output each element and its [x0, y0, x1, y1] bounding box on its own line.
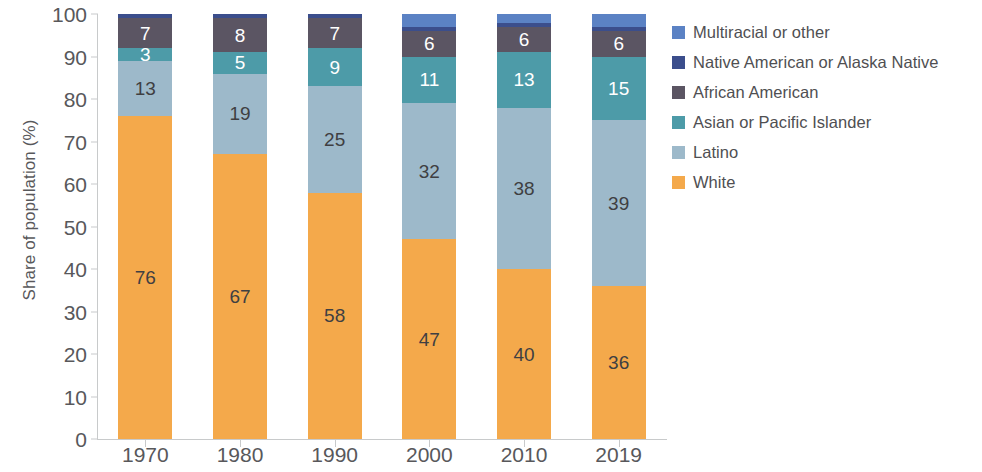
bar-segment-value: 32: [419, 162, 440, 181]
bar-segment[interactable]: [402, 27, 456, 31]
y-axis-tick-mark: [91, 56, 98, 57]
bar-slot: 4038136: [477, 14, 572, 439]
plot-area: 0102030405060708090100 76133767195858259…: [98, 14, 666, 439]
bar-segment[interactable]: 9: [308, 48, 362, 86]
y-axis-tick-mark: [91, 311, 98, 312]
bar-segment[interactable]: [308, 14, 362, 18]
chart-legend: Multiracial or otherNative American or A…: [672, 18, 978, 198]
x-axis-tick-label: 2010: [477, 443, 572, 467]
y-axis-tick-mark: [91, 396, 98, 397]
y-axis-tick-mark: [91, 354, 98, 355]
bar-segment[interactable]: 13: [497, 52, 551, 107]
legend-label: White: [693, 173, 735, 192]
bar-segment-value: 39: [608, 194, 629, 213]
legend-swatch-icon: [672, 116, 685, 129]
bar-segment-value: 47: [419, 330, 440, 349]
bar-segment-value: 15: [608, 79, 629, 98]
y-axis-tick-mark: [91, 99, 98, 100]
y-axis-tick-mark: [91, 141, 98, 142]
bar-segment-value: 6: [519, 30, 530, 49]
bar-segment-value: 6: [613, 34, 624, 53]
legend-label: Native American or Alaska Native: [693, 53, 939, 72]
bar-segment[interactable]: 25: [308, 86, 362, 192]
bar-segment[interactable]: 76: [118, 116, 172, 439]
bar-segment[interactable]: 47: [402, 239, 456, 439]
bar-segment[interactable]: [497, 14, 551, 23]
bar-segment[interactable]: [402, 14, 456, 27]
bar-stack[interactable]: 671958: [213, 14, 267, 439]
x-axis-tick-label: 1970: [98, 443, 193, 467]
bar-segment[interactable]: 19: [213, 74, 267, 155]
x-axis-tick-label: 2000: [382, 443, 477, 467]
legend-item[interactable]: White: [672, 168, 978, 196]
x-axis-labels: 197019801990200020102019: [98, 443, 666, 467]
bar-segment[interactable]: 11: [402, 57, 456, 104]
bar-segment[interactable]: [592, 14, 646, 27]
bar-segment-value: 5: [235, 53, 246, 72]
bar-segment[interactable]: 7: [308, 18, 362, 48]
bar-segment-value: 25: [324, 130, 345, 149]
bar-segment-value: 40: [513, 345, 534, 364]
legend-swatch-icon: [672, 56, 685, 69]
bar-segment-value: 7: [329, 24, 340, 43]
legend-label: Latino: [693, 143, 738, 162]
bar-segment[interactable]: 38: [497, 108, 551, 270]
bar-segment[interactable]: 8: [213, 18, 267, 52]
y-axis-tick-mark: [91, 439, 98, 440]
legend-item[interactable]: Multiracial or other: [672, 18, 978, 46]
bar-segment-value: 38: [513, 179, 534, 198]
bar-group: 761337671958582597473211640381363639156: [98, 14, 666, 439]
bar-stack[interactable]: 4038136: [497, 14, 551, 439]
y-axis-tick-mark: [91, 226, 98, 227]
bar-segment-value: 76: [135, 268, 156, 287]
legend-label: Multiracial or other: [693, 23, 830, 42]
bar-segment[interactable]: 13: [118, 61, 172, 116]
bar-segment[interactable]: 6: [402, 31, 456, 57]
legend-swatch-icon: [672, 146, 685, 159]
stacked-bar-chart: Share of population (%) 0102030405060708…: [0, 0, 982, 472]
bar-segment[interactable]: 32: [402, 103, 456, 239]
y-axis-title: Share of population (%): [20, 45, 40, 375]
bar-segment[interactable]: 3: [118, 48, 172, 61]
bar-segment[interactable]: 58: [308, 193, 362, 440]
x-axis-tick-label: 2019: [571, 443, 666, 467]
bar-slot: 582597: [287, 14, 382, 439]
bar-segment[interactable]: 15: [592, 57, 646, 121]
bar-slot: 671958: [193, 14, 288, 439]
legend-item[interactable]: Asian or Pacific Islander: [672, 108, 978, 136]
bar-segment-value: 6: [424, 34, 435, 53]
x-axis-line: [97, 439, 667, 440]
legend-item[interactable]: Latino: [672, 138, 978, 166]
bar-segment[interactable]: 6: [497, 27, 551, 53]
bar-slot: 3639156: [571, 14, 666, 439]
bar-segment[interactable]: 40: [497, 269, 551, 439]
bar-segment-value: 19: [229, 104, 250, 123]
bar-segment-value: 7: [140, 24, 151, 43]
bar-segment-value: 36: [608, 353, 629, 372]
bar-segment[interactable]: 7: [118, 18, 172, 48]
y-axis-tick-mark: [91, 184, 98, 185]
bar-stack[interactable]: 3639156: [592, 14, 646, 439]
legend-label: Asian or Pacific Islander: [693, 113, 871, 132]
bar-segment-value: 9: [329, 58, 340, 77]
bar-segment-value: 58: [324, 306, 345, 325]
legend-swatch-icon: [672, 26, 685, 39]
bar-segment[interactable]: [118, 14, 172, 18]
legend-item[interactable]: Native American or Alaska Native: [672, 48, 978, 76]
bar-stack[interactable]: 582597: [308, 14, 362, 439]
bar-segment-value: 8: [235, 26, 246, 45]
bar-segment[interactable]: 67: [213, 154, 267, 439]
bar-stack[interactable]: 4732116: [402, 14, 456, 439]
legend-item[interactable]: African American: [672, 78, 978, 106]
bar-segment[interactable]: [213, 14, 267, 18]
bar-segment[interactable]: 39: [592, 120, 646, 286]
bar-segment[interactable]: 5: [213, 52, 267, 73]
bar-segment[interactable]: [592, 27, 646, 31]
bar-stack[interactable]: 761337: [118, 14, 172, 439]
bar-segment[interactable]: 6: [592, 31, 646, 57]
y-axis-tick-mark: [91, 269, 98, 270]
bar-segment[interactable]: 36: [592, 286, 646, 439]
bar-segment[interactable]: [497, 23, 551, 27]
bar-segment-value: 67: [229, 287, 250, 306]
bar-slot: 4732116: [382, 14, 477, 439]
